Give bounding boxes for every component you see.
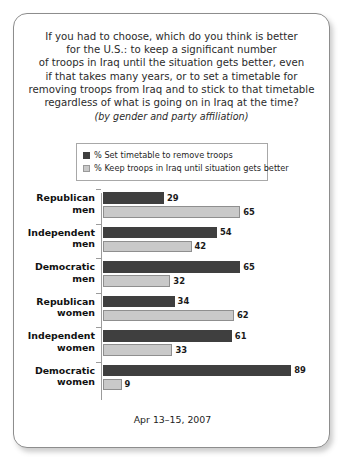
bar-keep-troops[interactable]	[103, 275, 171, 287]
bar-set-timetable[interactable]	[103, 330, 232, 342]
chart-legend: % Set timetable to remove troops % Keep …	[76, 143, 268, 181]
category-label-line1: Democratic	[35, 365, 95, 376]
bar-value-label: 32	[173, 276, 185, 286]
chart-plot-area: Republicanmen2965Independentmen5442Democ…	[14, 189, 331, 404]
title-line-5: removing troops from Iraq and to stick t…	[24, 83, 319, 96]
category-label-line1: Democratic	[35, 261, 95, 272]
bar-keep-troops[interactable]	[103, 379, 122, 391]
bar-row: 65	[103, 261, 331, 273]
bar-row: 32	[103, 275, 331, 287]
bar-group-list: Republicanmen2965Independentmen5442Democ…	[14, 189, 331, 404]
bar-pair: 5442	[103, 227, 331, 255]
bar-pair: 899	[103, 365, 331, 393]
chart-page: If you had to choose, which do you think…	[0, 0, 345, 465]
category-label: Republicanwomen	[14, 296, 95, 319]
bar-pair: 2965	[103, 192, 331, 220]
category-label-line2: men	[14, 204, 95, 216]
category-label-line2: men	[14, 273, 95, 285]
bar-group: Republicanmen2965	[14, 189, 331, 224]
bar-value-label: 62	[237, 310, 249, 320]
category-label: Republicanmen	[14, 192, 95, 215]
axis-tick	[96, 258, 101, 259]
category-label-line1: Republican	[36, 192, 95, 203]
legend-swatch-dark-icon	[83, 152, 90, 159]
axis-tick	[96, 327, 101, 328]
bar-value-label: 9	[125, 379, 131, 389]
bar-value-label: 65	[243, 207, 255, 217]
bar-value-label: 89	[294, 365, 306, 375]
category-label-line1: Independent	[28, 330, 95, 341]
bar-value-label: 33	[175, 345, 187, 355]
bar-set-timetable[interactable]	[103, 227, 217, 239]
legend-swatch-light-icon	[83, 165, 90, 172]
legend-item-set-timetable[interactable]: % Set timetable to remove troops	[83, 149, 261, 161]
bar-keep-troops[interactable]	[103, 310, 234, 322]
bar-value-label: 34	[178, 296, 190, 306]
title-line-1: If you had to choose, which do you think…	[24, 30, 319, 43]
bar-row: 9	[103, 379, 331, 391]
category-label: Independentwomen	[14, 330, 95, 353]
bar-set-timetable[interactable]	[103, 296, 175, 308]
bar-value-label: 42	[195, 241, 207, 251]
bar-row: 29	[103, 192, 331, 204]
title-line-6: regardless of what is going on in Iraq a…	[24, 96, 319, 109]
axis-tick	[96, 293, 101, 294]
chart-title: If you had to choose, which do you think…	[24, 30, 319, 124]
title-line-2: for the U.S.: to keep a significant numb…	[24, 43, 319, 56]
bar-row: 34	[103, 296, 331, 308]
bar-pair: 6532	[103, 261, 331, 289]
bar-keep-troops[interactable]	[103, 241, 192, 253]
bar-row: 33	[103, 344, 331, 356]
bar-group: Independentwomen6133	[14, 327, 331, 362]
bar-row: 89	[103, 365, 331, 377]
bar-group: Republicanwomen3462	[14, 293, 331, 328]
bar-row: 42	[103, 241, 331, 253]
title-line-3: of troops in Iraq until the situation ge…	[24, 56, 319, 69]
axis-tick	[96, 224, 101, 225]
bar-pair: 6133	[103, 330, 331, 358]
bar-value-label: 54	[220, 227, 232, 237]
bar-pair: 3462	[103, 296, 331, 324]
bar-keep-troops[interactable]	[103, 206, 241, 218]
bar-value-label: 61	[235, 331, 247, 341]
bar-row: 54	[103, 227, 331, 239]
legend-item-keep-troops[interactable]: % Keep troops in Iraq until situation ge…	[83, 162, 261, 174]
legend-label-keep-troops: % Keep troops in Iraq until situation ge…	[94, 163, 289, 173]
bar-set-timetable[interactable]	[103, 365, 292, 377]
bar-value-label: 65	[243, 262, 255, 272]
bar-row: 62	[103, 310, 331, 322]
category-label: Independentmen	[14, 227, 95, 250]
axis-tick	[96, 362, 101, 363]
bar-row: 65	[103, 206, 331, 218]
title-line-4: if that takes many years, or to set a ti…	[24, 70, 319, 83]
category-label: Democraticwomen	[14, 365, 95, 388]
chart-subtitle: (by gender and party affiliation)	[24, 110, 319, 124]
category-label-line2: women	[14, 376, 95, 388]
category-label-line1: Independent	[28, 227, 95, 238]
category-label-line2: men	[14, 238, 95, 250]
category-label-line2: women	[14, 307, 95, 319]
bar-keep-troops[interactable]	[103, 344, 173, 356]
bar-group: Independentmen5442	[14, 224, 331, 259]
bar-group: Democraticwomen899	[14, 362, 331, 397]
axis-tick	[96, 189, 101, 190]
bar-set-timetable[interactable]	[103, 192, 164, 204]
bar-set-timetable[interactable]	[103, 261, 241, 273]
chart-card: If you had to choose, which do you think…	[13, 13, 330, 448]
bar-value-label: 29	[167, 193, 179, 203]
category-label-line1: Republican	[36, 296, 95, 307]
category-label-line2: women	[14, 342, 95, 354]
bar-group: Democraticmen6532	[14, 258, 331, 293]
category-label: Democraticmen	[14, 261, 95, 284]
bar-row: 61	[103, 330, 331, 342]
chart-footer-date: Apr 13–15, 2007	[14, 414, 331, 425]
legend-label-set-timetable: % Set timetable to remove troops	[94, 150, 233, 160]
